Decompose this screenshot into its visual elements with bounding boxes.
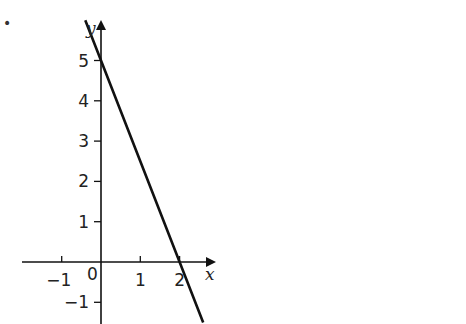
y-tick-label: 1: [78, 212, 89, 232]
line-graph: • −112−112345 x y 0: [0, 0, 466, 324]
x-tick-label: 1: [135, 270, 146, 290]
y-tick-label: 4: [78, 91, 89, 111]
origin-label: 0: [87, 264, 98, 284]
y-tick-label: 2: [78, 171, 89, 191]
y-axis-label: y: [85, 18, 96, 38]
y-tick-label: 5: [78, 51, 89, 71]
bullet-marker: •: [3, 15, 11, 31]
y-tick-label: −1: [64, 292, 89, 312]
x-axis-label: x: [205, 264, 215, 284]
ticks: −112−112345: [46, 51, 185, 313]
x-tick-label: −1: [46, 270, 71, 290]
y-tick-label: 3: [78, 131, 89, 151]
